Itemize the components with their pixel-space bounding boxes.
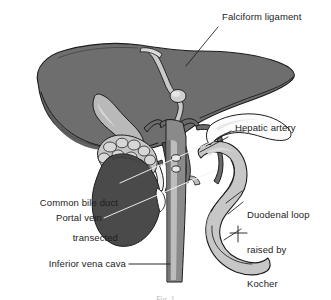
figure-container: Falciform ligament Hepatic artery Common…	[0, 0, 331, 300]
inferior-vena-cava-group	[166, 120, 186, 282]
label-duodenal-loop-line1: Duodenal loop	[247, 209, 331, 221]
label-common-bile-duct-line2: transected	[6, 232, 118, 244]
label-duodenal-loop: Duodenal loop raised by Kocher maneuver	[247, 186, 331, 300]
label-common-bile-duct-line1: Common bile duct	[6, 197, 118, 209]
label-hepatic-artery: Hepatic artery	[235, 122, 296, 134]
falciform-ligament-knob-highlight	[172, 91, 180, 97]
label-portal-vein: Portal vein	[20, 212, 102, 224]
figure-caption: Fig. 1	[0, 293, 331, 300]
label-falciform-ligament: Falciform ligament	[222, 11, 301, 23]
vessel-cross-section-2	[172, 166, 180, 172]
label-inferior-vena-cava: Inferior vena cava	[18, 258, 126, 270]
label-duodenal-loop-line3: Kocher	[247, 278, 331, 290]
label-duodenal-loop-line2: raised by	[247, 244, 331, 256]
